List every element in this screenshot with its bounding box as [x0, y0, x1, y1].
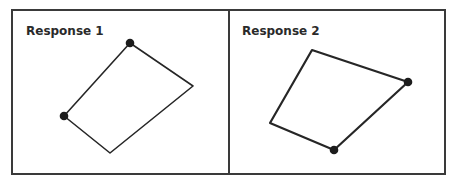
- response-2-label: Response 2: [242, 24, 320, 38]
- responses-frame: Response 1 Response 2: [11, 9, 446, 175]
- response-2-panel: Response 2: [230, 11, 444, 173]
- response-1-panel: Response 1: [13, 11, 230, 173]
- response-1-label: Response 1: [26, 24, 104, 38]
